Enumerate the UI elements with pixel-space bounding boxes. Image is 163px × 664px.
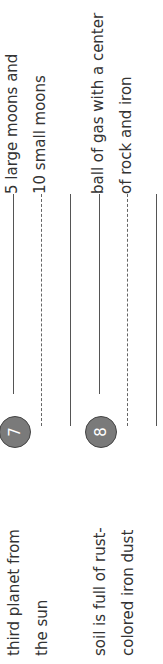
writing-line-top[interactable]: [99, 194, 100, 394]
answer-line-2: 10 small moons: [26, 0, 54, 194]
writing-line-baseline[interactable]: [156, 194, 157, 426]
answer-text: 5 large moons and 10 small moons: [0, 0, 54, 194]
writing-line-midline[interactable]: [41, 194, 42, 426]
clue-line-2: the sun: [28, 466, 56, 656]
clue-line-1: third planet from: [0, 466, 28, 656]
answer-line-1: 5 large moons and: [0, 0, 26, 194]
number-badge: 8: [85, 416, 117, 448]
answer-line-1: ball of gas with a center: [84, 0, 112, 194]
matching-row-7: third planet from the sun 7 5 large moon…: [0, 0, 80, 664]
worksheet-page: third planet from the sun 7 5 large moon…: [0, 0, 163, 664]
answer-text: ball of gas with a center of rock and ir…: [84, 0, 140, 194]
answer-line-2: of rock and iron: [112, 0, 140, 194]
writing-line-baseline[interactable]: [70, 194, 71, 426]
number-badge: 7: [0, 416, 31, 448]
clue-text: soil is full of rust- colored iron dust: [86, 466, 142, 656]
clue-text: third planet from the sun: [0, 466, 56, 656]
writing-line-top[interactable]: [13, 194, 14, 394]
clue-line-1: soil is full of rust-: [86, 466, 114, 656]
clue-line-2: colored iron dust: [114, 466, 142, 656]
writing-line-midline[interactable]: [127, 194, 128, 426]
matching-row-8: soil is full of rust- colored iron dust …: [86, 0, 163, 664]
